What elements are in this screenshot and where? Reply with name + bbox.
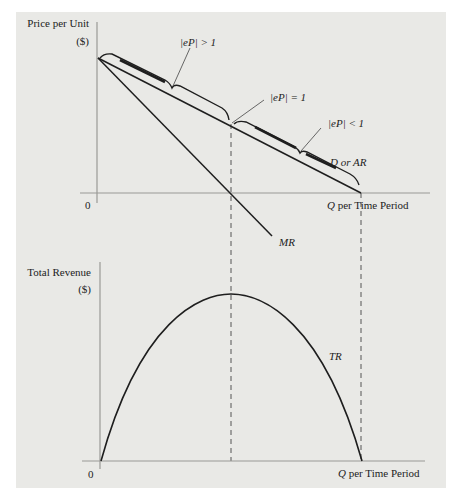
elastic-leader (173, 48, 190, 86)
top-yunit: ($) (20, 35, 89, 47)
chart-canvas (0, 0, 458, 499)
unit-leader (232, 100, 264, 123)
bottom-origin: 0 (88, 468, 94, 480)
top-xlabel: Q per Time Period (327, 199, 409, 211)
demand-label: D or AR (330, 156, 366, 168)
top-origin: 0 (85, 199, 91, 211)
top-xlabel-rest: per Time Period (338, 199, 409, 211)
bottom-yunit: ($) (20, 283, 91, 295)
inelastic-annotation: |eP| < 1 (328, 117, 364, 129)
inelastic-brace-bold (255, 127, 336, 168)
inelastic-leader (301, 128, 321, 151)
inelastic-brace (234, 121, 359, 185)
unit-annotation: |eP| = 1 (270, 91, 306, 103)
top-ylabel: Price per Unit (20, 17, 89, 29)
demand-curve (98, 58, 361, 193)
elastic-brace-bold (120, 60, 165, 82)
top-xlabel-q: Q (327, 199, 335, 211)
elastic-brace (100, 54, 229, 120)
tr-label: TR (329, 350, 342, 362)
elastic-annotation: |eP| > 1 (180, 36, 216, 48)
bottom-xlabel-q: Q (338, 467, 346, 479)
bottom-xlabel: Q per Time Period (338, 467, 420, 479)
mr-label: MR (279, 236, 295, 248)
bottom-ylabel: Total Revenue (20, 266, 91, 278)
bottom-xlabel-rest: per Time Period (349, 467, 420, 479)
mr-curve (98, 58, 272, 236)
